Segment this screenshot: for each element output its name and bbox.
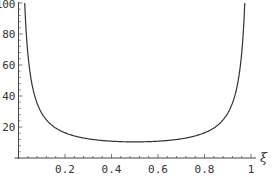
x-tick-label: 0.6 (148, 163, 168, 176)
x-tick-label: 0.8 (195, 163, 215, 176)
x-tick-label: 0.4 (102, 163, 122, 176)
y-tick-label: 80 (2, 28, 15, 41)
x-axis-label: ξ (260, 150, 268, 165)
axes: 0.20.40.60.8120406080100 (0, 0, 256, 176)
x-tick-label: 1 (248, 163, 255, 176)
y-tick-label: 60 (2, 59, 15, 72)
y-tick-label: 100 (0, 0, 16, 11)
data-curve (25, 3, 245, 142)
y-tick-label: 40 (2, 90, 15, 103)
x-tick-label: 0.2 (55, 163, 75, 176)
y-tick-label: 20 (2, 121, 15, 134)
plot-area: 0.20.40.60.8120406080100 ξ (0, 0, 272, 177)
